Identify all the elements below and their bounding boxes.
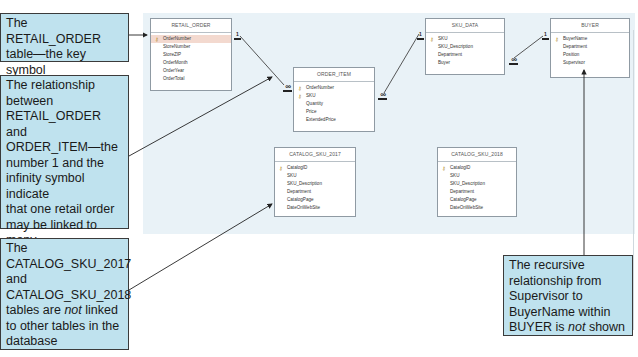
field-quantity[interactable]: Quantity bbox=[294, 100, 374, 108]
field-storenumber[interactable]: StoreNumber bbox=[151, 43, 231, 51]
cardinality-one-sku-data: 1 bbox=[417, 31, 424, 40]
table-title: SKU_DATA bbox=[426, 19, 504, 33]
table-catalog-sku-2018[interactable]: CATALOG_SKU_2018 ⚷CatalogID SKU SKU_Desc… bbox=[437, 147, 517, 217]
field-sku-description[interactable]: SKU_Description bbox=[438, 180, 516, 188]
table-order-item[interactable]: ORDER_ITEM ⚷OrderNumber ⚷SKU Quantity Pr… bbox=[293, 67, 375, 132]
field-dateonwebsite[interactable]: DateOnWebSite bbox=[438, 204, 516, 212]
table-sku-data[interactable]: SKU_DATA ⚷SKU SKU_Description Department… bbox=[425, 18, 505, 75]
field-department[interactable]: Department bbox=[438, 188, 516, 196]
callout-catalog-tables: The CATALOG_SKU_2017 and CATALOG_SKU_201… bbox=[0, 238, 129, 350]
field-storezip[interactable]: StoreZIP bbox=[151, 51, 231, 59]
field-sku[interactable]: SKU bbox=[275, 172, 355, 180]
key-icon: ⚷ bbox=[298, 84, 302, 92]
cardinality-many-sku-buyer: ∞ bbox=[509, 56, 518, 65]
field-ordermonth[interactable]: OrderMonth bbox=[151, 59, 231, 67]
table-title: ORDER_ITEM bbox=[294, 68, 374, 82]
table-title: CATALOG_SKU_2018 bbox=[438, 148, 516, 162]
key-icon: ⚷ bbox=[555, 35, 559, 43]
field-catalogpage[interactable]: CatalogPage bbox=[438, 196, 516, 204]
field-sku[interactable]: ⚷SKU bbox=[294, 92, 374, 100]
field-ordernumber[interactable]: ⚷OrderNumber bbox=[151, 35, 231, 43]
field-sku-description[interactable]: SKU_Description bbox=[426, 43, 504, 51]
key-icon: ⚷ bbox=[155, 35, 159, 43]
callout-relationship: The relationship between RETAIL_ORDER an… bbox=[0, 75, 129, 229]
table-catalog-sku-2017[interactable]: CATALOG_SKU_2017 ⚷CatalogID SKU SKU_Desc… bbox=[274, 147, 356, 217]
table-title: BUYER bbox=[551, 19, 629, 33]
field-catalogid[interactable]: ⚷CatalogID bbox=[275, 164, 355, 172]
field-position[interactable]: Position bbox=[551, 51, 629, 59]
key-icon: ⚷ bbox=[430, 35, 434, 43]
cardinality-one-retail-order: 1 bbox=[234, 31, 241, 40]
table-title: RETAIL_ORDER bbox=[151, 19, 231, 33]
field-ordertotal[interactable]: OrderTotal bbox=[151, 75, 231, 83]
key-icon: ⚷ bbox=[298, 92, 302, 100]
field-dateonwebsite[interactable]: DateOnWebSite bbox=[275, 204, 355, 212]
canvas-edge bbox=[633, 30, 634, 330]
table-buyer[interactable]: BUYER ⚷BuyerName Department Position Sup… bbox=[550, 18, 630, 78]
field-department[interactable]: Department bbox=[551, 43, 629, 51]
field-sku[interactable]: SKU bbox=[438, 172, 516, 180]
field-department[interactable]: Department bbox=[275, 188, 355, 196]
field-department[interactable]: Department bbox=[426, 51, 504, 59]
table-retail-order[interactable]: RETAIL_ORDER ⚷OrderNumber StoreNumber St… bbox=[150, 18, 232, 91]
field-catalogpage[interactable]: CatalogPage bbox=[275, 196, 355, 204]
key-icon: ⚷ bbox=[279, 164, 283, 172]
field-price[interactable]: Price bbox=[294, 108, 374, 116]
cardinality-one-buyer: 1 bbox=[542, 31, 549, 40]
cardinality-many-order-item: ∞ bbox=[283, 83, 292, 92]
field-sku[interactable]: ⚷SKU bbox=[426, 35, 504, 43]
table-title: CATALOG_SKU_2017 bbox=[275, 148, 355, 162]
field-buyername[interactable]: ⚷BuyerName bbox=[551, 35, 629, 43]
field-supervisor[interactable]: Supervisor bbox=[551, 59, 629, 67]
field-ordernumber[interactable]: ⚷OrderNumber bbox=[294, 84, 374, 92]
field-sku-description[interactable]: SKU_Description bbox=[275, 180, 355, 188]
callout-primary-key: The RETAIL_ORDER table—the key symbol sh… bbox=[0, 13, 129, 62]
field-extendedprice[interactable]: ExtendedPrice bbox=[294, 116, 374, 124]
cardinality-many-order-item-sku: ∞ bbox=[378, 91, 387, 100]
field-catalogid[interactable]: ⚷CatalogID bbox=[438, 164, 516, 172]
key-icon: ⚷ bbox=[442, 164, 446, 172]
field-orderyear[interactable]: OrderYear bbox=[151, 67, 231, 75]
callout-recursive: The recursive relationship from Supervis… bbox=[503, 255, 633, 336]
field-buyer[interactable]: Buyer bbox=[426, 59, 504, 67]
